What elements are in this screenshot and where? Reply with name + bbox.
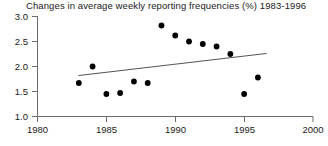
y-tick-label-1-0: 1.0 bbox=[15, 111, 28, 122]
trend-line bbox=[79, 54, 266, 76]
y-tick-label-2-0: 2.0 bbox=[15, 61, 28, 72]
data-point bbox=[90, 64, 96, 70]
y-tick-label-2-5: 2.5 bbox=[15, 36, 28, 47]
x-tick-label-1980: 1980 bbox=[27, 124, 48, 135]
x-tick-label-1990: 1990 bbox=[165, 124, 186, 135]
data-point bbox=[214, 44, 220, 50]
data-point-group bbox=[76, 23, 261, 97]
x-tick-label-1995: 1995 bbox=[234, 124, 255, 135]
chart-figure: Changes in average weekly reporting freq… bbox=[0, 0, 328, 146]
data-point bbox=[76, 80, 82, 86]
scatter-plot: 3.0 2.5 2.0 1.5 1.0 1980 1985 1990 1995 … bbox=[0, 0, 328, 146]
data-point bbox=[200, 41, 206, 47]
data-point bbox=[117, 90, 123, 96]
data-point bbox=[131, 79, 137, 85]
y-tick-label-1-5: 1.5 bbox=[15, 86, 28, 97]
data-point bbox=[103, 91, 109, 97]
x-tick-label-2000: 2000 bbox=[302, 124, 323, 135]
data-point bbox=[255, 75, 261, 81]
y-tick-label-3-0: 3.0 bbox=[15, 11, 28, 22]
x-tick-label-1985: 1985 bbox=[96, 124, 117, 135]
data-point bbox=[145, 80, 151, 86]
data-point bbox=[227, 51, 233, 57]
x-axis-ticks bbox=[38, 117, 314, 123]
data-point bbox=[186, 39, 192, 45]
data-point bbox=[241, 91, 247, 97]
data-point bbox=[159, 23, 165, 29]
y-axis-ticks bbox=[32, 17, 38, 117]
data-point bbox=[172, 33, 178, 39]
